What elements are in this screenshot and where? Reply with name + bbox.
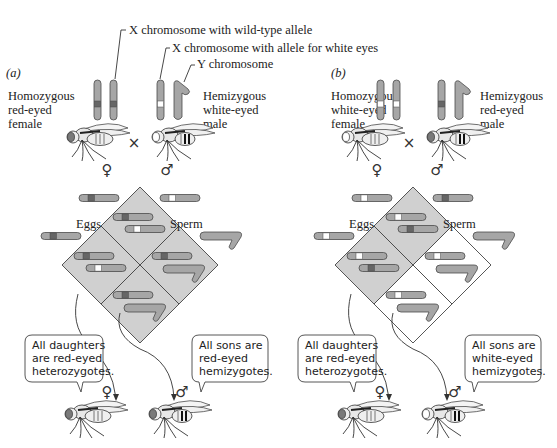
bubble-text-line: All daughters xyxy=(305,339,378,352)
female-symbol: ♀ xyxy=(102,161,113,179)
wild-type-allele-band xyxy=(110,101,116,107)
fly-leg xyxy=(164,417,165,438)
egg-chromosome xyxy=(352,195,392,202)
bubble-text-line: red-eyed xyxy=(199,352,248,365)
egg-chromosome xyxy=(314,233,354,240)
y-chromosome-body xyxy=(174,81,190,120)
male-x-chromosome xyxy=(438,80,445,120)
white-allele-band xyxy=(157,101,163,107)
male-parent-fly xyxy=(427,124,490,161)
arrowhead xyxy=(113,394,119,401)
cross-symbol: × xyxy=(403,134,416,152)
egg-chromosome xyxy=(41,233,81,240)
sons-speech-bubble: All sons arered-eyedhemizygotes. xyxy=(192,335,273,392)
sperm-chromosome xyxy=(160,195,200,202)
sperm-y-chromosome xyxy=(200,232,242,249)
female-parent-fly xyxy=(67,124,130,161)
male-symbol: ♂ xyxy=(160,161,173,179)
white-allele-band xyxy=(393,101,399,107)
male-y-chromosome xyxy=(455,81,471,120)
chromosome-body xyxy=(438,80,445,120)
male-x-chromosome xyxy=(157,80,164,120)
callouts xyxy=(115,30,195,82)
female-x-chromosome xyxy=(94,80,101,120)
sperm-y-chromosome xyxy=(473,232,515,249)
sperm-label: Sperm xyxy=(443,217,476,231)
wild-type-allele-band xyxy=(88,195,95,201)
offspring-chromosome xyxy=(347,253,387,260)
chromosome-body xyxy=(125,226,165,233)
fly-leg xyxy=(353,417,354,438)
offspring-chromosome xyxy=(74,253,114,260)
son-male-symbol: ♂ xyxy=(175,383,188,401)
fly-leg xyxy=(357,140,358,161)
bubble-text-line: white-eyed xyxy=(472,352,533,365)
offspring-chromosome xyxy=(386,292,426,299)
panel-a: (a)Homozygousred-eyedfemaleHemizygouswhi… xyxy=(6,66,273,438)
white-allele-band xyxy=(356,253,363,259)
female-x-chromosome xyxy=(110,80,117,120)
chromosome-body xyxy=(113,214,153,221)
offspring-chromosome xyxy=(113,292,153,299)
wild-type-allele-band xyxy=(50,233,57,239)
male-symbol: ♂ xyxy=(430,161,443,179)
female-parent-label: Homozygous xyxy=(8,89,75,103)
wild-type-allele-band xyxy=(438,101,444,107)
white-allele-band xyxy=(377,101,383,107)
son-male-symbol: ♂ xyxy=(448,383,461,401)
offspring-chromosome xyxy=(125,226,165,233)
fly-leg xyxy=(82,140,83,161)
red-eye xyxy=(150,410,157,419)
offspring-chromosome xyxy=(398,226,438,233)
bubble-text-line: All daughters xyxy=(32,339,105,352)
chromosome-body xyxy=(314,233,354,240)
white-eye xyxy=(153,133,160,142)
chromosome-body xyxy=(393,80,400,120)
white-allele-band xyxy=(395,292,402,298)
wild-type-allele-band xyxy=(122,214,129,220)
x-linked-inheritance-diagram: X chromosome with wild-type allele X chr… xyxy=(0,0,557,448)
male-parent-label: Hemizygous xyxy=(480,89,543,103)
male-y-chromosome xyxy=(174,81,190,120)
callout-y: Y chromosome xyxy=(197,57,274,71)
callout-line-wild-type xyxy=(115,30,126,79)
female-parent-label: Homozygous xyxy=(331,89,398,103)
chromosome-body xyxy=(433,195,473,202)
male-parent-label: Hemizygous xyxy=(203,89,266,103)
chromosome-body xyxy=(347,253,387,260)
white-eye xyxy=(423,410,430,419)
chromosome-body xyxy=(359,265,399,272)
red-eye xyxy=(66,410,73,419)
offspring-chromosome xyxy=(152,253,192,260)
female-x-chromosome xyxy=(377,80,384,120)
daughter-fly xyxy=(338,401,401,438)
chromosome-body xyxy=(74,253,114,260)
white-allele-band xyxy=(95,265,102,271)
panel-label: (b) xyxy=(331,66,346,80)
wild-type-allele-band xyxy=(94,101,100,107)
fly-leg xyxy=(167,140,168,161)
offspring-chromosome xyxy=(425,253,465,260)
chromosome-body xyxy=(86,265,126,272)
daughter-fly xyxy=(65,401,128,438)
wild-type-allele-band xyxy=(83,253,90,259)
red-eye xyxy=(68,133,75,142)
male-parent-fly xyxy=(152,124,215,161)
offspring-chromosome xyxy=(86,265,126,272)
chromosome-body xyxy=(352,195,392,202)
female-x-chromosome xyxy=(393,80,400,120)
fly-leg xyxy=(437,417,438,438)
bubble-text-line: All sons are xyxy=(199,339,263,352)
y-chromosome-body xyxy=(473,232,515,249)
y-chromosome-body xyxy=(455,81,471,120)
white-allele-band xyxy=(134,226,141,232)
wild-type-allele-band xyxy=(161,253,168,259)
offspring-chromosome xyxy=(359,265,399,272)
arrowhead xyxy=(386,394,392,401)
chromosome-body xyxy=(425,253,465,260)
white-eye xyxy=(343,133,350,142)
fly-leg xyxy=(442,140,443,161)
male-parent-label: white-eyed xyxy=(203,103,259,117)
chromosome-body xyxy=(94,80,101,120)
callout-line-white xyxy=(160,48,170,79)
